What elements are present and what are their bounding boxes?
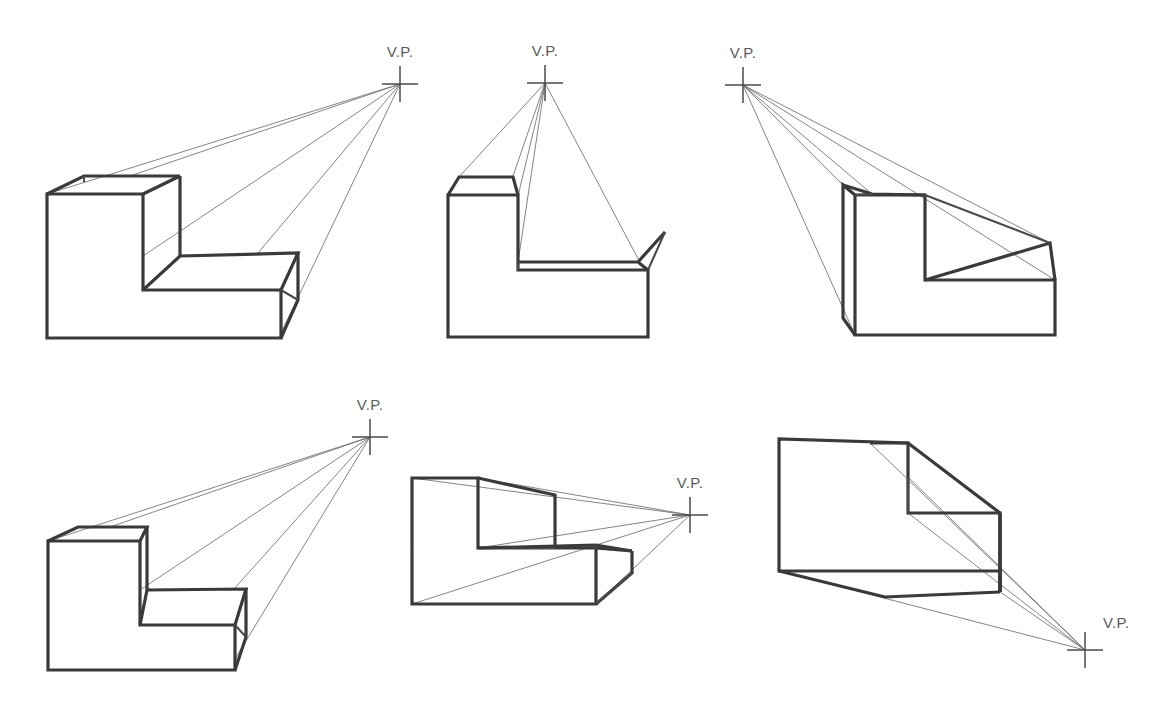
figure-5-vanishing-point — [672, 497, 708, 533]
figure-1-vp-label: V.P. — [387, 43, 414, 60]
figure-3-vp-label: V.P. — [730, 44, 757, 61]
figure-2-vanishing-point — [527, 65, 563, 101]
figure-6-projection-lines — [779, 443, 1085, 650]
figure-4-vp-label: V.P. — [357, 396, 384, 413]
figure-2-object — [448, 177, 665, 337]
figure-2-vp-label: V.P. — [532, 42, 559, 59]
figure-3-projection-lines — [743, 85, 1055, 335]
figure-1: V.P. — [47, 43, 418, 338]
figure-3: V.P. — [725, 44, 1055, 335]
figure-2: V.P. — [448, 42, 665, 337]
figure-5-vp-label: V.P. — [677, 474, 704, 491]
figure-1-object — [47, 176, 298, 338]
figure-6-vp-label: V.P. — [1103, 614, 1130, 631]
figure-4: V.P. — [48, 396, 388, 670]
figure-5-projection-lines — [412, 478, 690, 604]
figure-1-vanishing-point — [382, 66, 418, 102]
perspective-drawing-canvas: V.P. — [0, 0, 1163, 713]
drawing-sheet: V.P. — [0, 0, 1163, 713]
figure-4-vanishing-point — [352, 419, 388, 455]
figure-6: V.P. — [779, 439, 1130, 668]
figure-4-object — [48, 527, 246, 670]
figure-5: V.P. — [412, 474, 708, 604]
figure-6-object — [779, 439, 1000, 597]
figure-1-projection-lines — [47, 84, 400, 333]
